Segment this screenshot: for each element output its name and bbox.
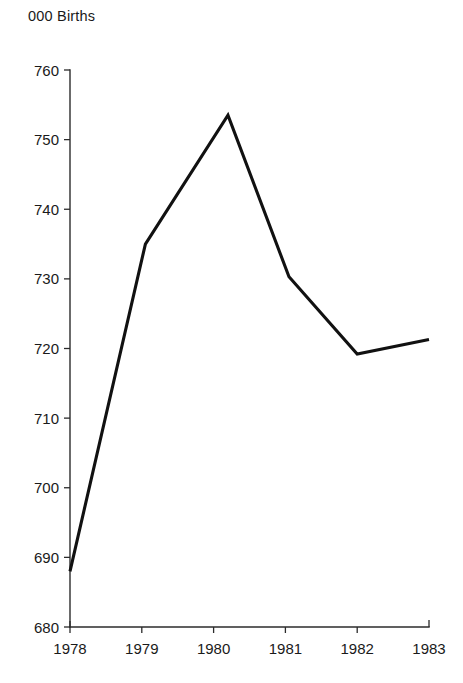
y-axis-tick-labels: 680690700710720730740750760 [34, 62, 59, 636]
y-tick-label: 750 [34, 131, 59, 148]
y-axis: 680690700710720730740750760 [34, 62, 70, 636]
x-tick-label: 1982 [341, 640, 374, 657]
y-tick-label: 680 [34, 619, 59, 636]
x-tick-label: 1983 [412, 640, 445, 657]
data-series-group [70, 115, 429, 571]
y-tick-label: 700 [34, 479, 59, 496]
x-tick-label: 1979 [125, 640, 158, 657]
x-axis: 197819791980198119821983 [53, 620, 445, 657]
y-tick-label: 710 [34, 410, 59, 427]
x-tick-label: 1981 [269, 640, 302, 657]
x-tick-label: 1980 [197, 640, 230, 657]
x-axis-tick-labels: 197819791980198119821983 [53, 640, 445, 657]
x-tick-label: 1978 [53, 640, 86, 657]
y-tick-label: 730 [34, 270, 59, 287]
y-tick-label: 720 [34, 340, 59, 357]
y-tick-label: 740 [34, 201, 59, 218]
series-line-births [70, 115, 429, 571]
y-tick-label: 760 [34, 62, 59, 79]
birth-rate-line-chart: 000 Births 680690700710720730740750760 1… [0, 0, 463, 683]
chart-plot-area: 680690700710720730740750760 197819791980… [0, 0, 463, 683]
y-tick-label: 690 [34, 549, 59, 566]
y-axis-ticks [64, 70, 70, 627]
